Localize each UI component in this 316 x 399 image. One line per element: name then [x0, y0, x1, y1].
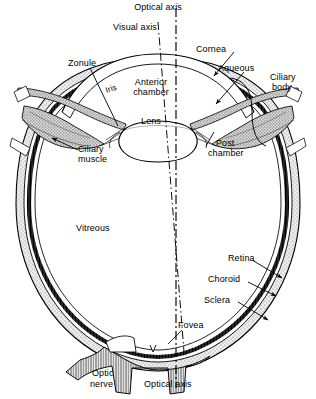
eye-cross-section-drawing — [0, 0, 316, 399]
label-optical-axis-top: Optical axis — [108, 2, 208, 12]
label-lens: Lens — [130, 116, 172, 126]
label-ciliary-body-line1: Ciliary — [270, 72, 296, 82]
label-visual-axis: Visual axis — [92, 22, 178, 32]
label-zonule: Zonule — [68, 58, 96, 68]
label-ciliary-body-line2: body — [272, 82, 292, 92]
label-cornea: Cornea — [196, 44, 226, 54]
label-choroid: Choroid — [208, 274, 240, 284]
label-anterior-chamber-line2: chamber — [118, 87, 184, 97]
label-optic-nerve-line1: Optic — [92, 368, 114, 378]
label-optical-axis-bottom: Optical axis — [144, 379, 192, 389]
label-ciliary-muscle-line1: Ciliary — [78, 144, 104, 154]
label-optic-nerve-line2: nerve — [90, 379, 113, 389]
lens — [119, 121, 197, 162]
label-fovea: Fovea — [178, 320, 204, 330]
label-anterior-chamber-line1: Anterior — [118, 77, 184, 87]
label-post-chamber-line1: Post — [216, 138, 234, 148]
label-aqueous: Aqueous — [218, 63, 254, 73]
eye-anatomy-diagram: Optical axis Visual axis Cornea Aqueous … — [0, 0, 316, 399]
label-post-chamber-line2: chamber — [208, 148, 244, 158]
label-retina: Retina — [228, 253, 255, 263]
label-vitreous: Vitreous — [76, 223, 110, 233]
label-sclera: Sclera — [204, 295, 230, 305]
label-ciliary-muscle-line2: muscle — [78, 154, 107, 164]
